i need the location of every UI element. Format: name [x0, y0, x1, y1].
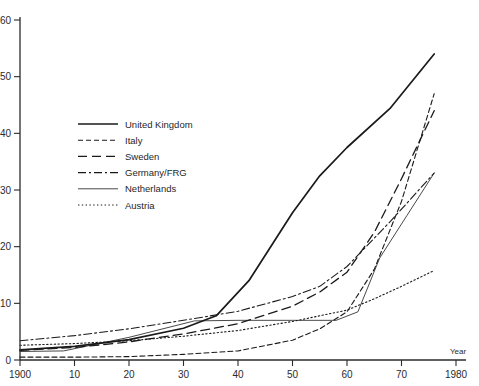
x-tick-label: 20: [123, 369, 135, 380]
legend-item-label: Austria: [125, 200, 155, 211]
y-tick-label: 30: [0, 185, 11, 196]
legend-item-label: Italy: [125, 135, 143, 146]
x-tick-label: 50: [287, 369, 299, 380]
x-tick-label: 60: [341, 369, 353, 380]
chart-canvas: 0102030405060 1900102030405060701980 Yea…: [0, 0, 479, 386]
series-line: [20, 270, 434, 345]
x-tick-label: 40: [232, 369, 244, 380]
y-tick-label: 10: [0, 298, 11, 309]
x-axis-ticks: 1900102030405060701980: [9, 360, 468, 380]
line-chart: 0102030405060 1900102030405060701980 Yea…: [0, 0, 479, 386]
y-tick-label: 20: [0, 241, 11, 252]
series-line: [20, 54, 434, 350]
y-tick-label: 0: [5, 355, 11, 366]
x-tick-label: 10: [69, 369, 81, 380]
legend-item-label: United Kingdom: [125, 119, 193, 130]
series-group: [20, 54, 434, 357]
y-tick-label: 40: [0, 128, 11, 139]
series-line: [20, 173, 434, 352]
series-line: [20, 111, 434, 351]
x-tick-label: 1900: [9, 369, 32, 380]
x-tick-label: 70: [396, 369, 408, 380]
legend-item-label: Netherlands: [125, 183, 176, 194]
y-tick-label: 50: [0, 71, 11, 82]
x-tick-label: 1980: [445, 369, 468, 380]
series-line: [20, 173, 434, 341]
legend-item-label: Germany/FRG: [125, 167, 187, 178]
series-line: [20, 94, 434, 358]
y-tick-label: 60: [0, 15, 11, 26]
y-axis-ticks: 0102030405060: [0, 15, 20, 366]
x-axis-label: Year: [450, 347, 467, 356]
legend: United KingdomItalySwedenGermany/FRGNeth…: [78, 119, 193, 211]
x-tick-label: 30: [178, 369, 190, 380]
legend-item-label: Sweden: [125, 151, 159, 162]
